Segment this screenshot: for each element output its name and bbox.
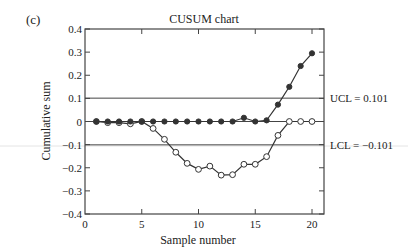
- filled-circle-marker: [219, 119, 224, 124]
- filled-circle-marker: [105, 119, 110, 124]
- chart-title: CUSUM chart: [169, 12, 239, 26]
- chart-canvas: (c) CUSUM chart −0.4−0.3−0.2−0.100.10.20…: [0, 0, 408, 252]
- y-tick-label: 0: [77, 116, 83, 128]
- data-series: [93, 51, 314, 178]
- series-line: [96, 53, 312, 121]
- x-tick-label: 0: [82, 218, 88, 230]
- filled-circle-marker: [116, 119, 121, 124]
- ucl-label: UCL = 0.101: [330, 92, 388, 104]
- x-tick-label: 5: [139, 218, 145, 230]
- x-tick-label: 20: [307, 218, 319, 230]
- y-tick-label: −0.4: [62, 208, 82, 220]
- filled-circle-marker: [128, 119, 133, 124]
- filled-circle-marker: [298, 63, 303, 68]
- open-circle-marker: [184, 160, 190, 166]
- y-tick-label: 0.4: [68, 23, 82, 35]
- y-tick-label: 0.1: [68, 92, 82, 104]
- y-tick-label: 0.2: [68, 69, 82, 81]
- series-line: [96, 122, 312, 176]
- filled-circle-marker: [275, 102, 280, 107]
- x-axis-label: Sample number: [160, 233, 236, 247]
- filled-circle-marker: [162, 119, 167, 124]
- y-tick-label: 0.3: [68, 46, 82, 58]
- open-circle-marker: [162, 136, 168, 142]
- open-circle-marker: [264, 154, 270, 160]
- y-tick-label: −0.2: [62, 162, 82, 174]
- y-axis-label: Cumulative sum: [39, 81, 53, 161]
- filled-circle-marker: [173, 119, 178, 124]
- open-circle-marker: [275, 132, 281, 138]
- open-circle-marker: [207, 163, 213, 169]
- open-circle-marker: [252, 161, 258, 167]
- filled-circle-marker: [151, 119, 156, 124]
- filled-circle-marker: [196, 119, 201, 124]
- filled-circle-marker: [207, 119, 212, 124]
- filled-circle-marker: [309, 51, 314, 56]
- open-circle-marker: [196, 166, 202, 172]
- filled-circle-marker: [139, 119, 144, 124]
- filled-circle-marker: [94, 119, 99, 124]
- filled-circle-marker: [264, 118, 269, 123]
- open-circle-marker: [150, 126, 156, 132]
- open-circle-marker: [286, 119, 292, 125]
- filled-circle-marker: [241, 115, 246, 120]
- filled-circle-marker: [253, 119, 258, 124]
- filled-circle-marker: [230, 119, 235, 124]
- filled-circle-marker: [185, 119, 190, 124]
- filled-circle-marker: [287, 84, 292, 89]
- open-circle-marker: [241, 161, 247, 167]
- y-tick-label: −0.1: [62, 139, 82, 151]
- lcl-label: LCL = −0.101: [330, 139, 393, 151]
- open-circle-marker: [173, 149, 179, 155]
- y-tick-label: −0.3: [62, 185, 82, 197]
- x-tick-label: 10: [193, 218, 205, 230]
- open-circle-marker: [218, 172, 224, 178]
- panel-label: (c): [26, 12, 40, 27]
- cusum-chart: (c) CUSUM chart −0.4−0.3−0.2−0.100.10.20…: [0, 0, 408, 252]
- open-circle-marker: [230, 172, 236, 178]
- open-circle-marker: [309, 119, 315, 125]
- open-circle-marker: [298, 119, 304, 125]
- upper-cusum-series: [94, 51, 315, 124]
- lower-cusum-series: [93, 119, 314, 178]
- x-tick-label: 15: [250, 218, 262, 230]
